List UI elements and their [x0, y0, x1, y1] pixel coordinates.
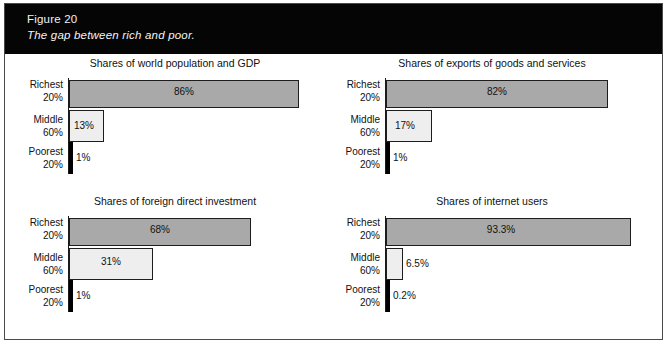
plot-area: Richest 20% 82% Middle 60% 17 — [332, 78, 652, 190]
panel-title: Shares of world population and GDP — [15, 56, 335, 70]
category-label-middle: Middle 60% — [15, 252, 63, 277]
bar-row-poorest: Poorest 20% 1% — [332, 142, 652, 174]
category-label-line2: 20% — [332, 92, 380, 105]
category-label-line2: 20% — [332, 297, 380, 310]
category-label-line2: 60% — [332, 127, 380, 140]
category-label-line2: 60% — [332, 265, 380, 278]
category-label-line2: 20% — [15, 159, 63, 172]
bar-row-poorest: Poorest 20% 1% — [15, 280, 335, 312]
category-label-line1: Poorest — [346, 284, 380, 295]
category-label-line2: 20% — [332, 230, 380, 243]
category-label-middle: Middle 60% — [15, 114, 63, 139]
category-label-line1: Richest — [347, 79, 380, 90]
bar-middle — [386, 248, 403, 280]
bar-poorest — [69, 142, 73, 174]
chart-panel-internet-users: Shares of internet users Richest 20% 93.… — [332, 194, 652, 334]
bar-value-middle: 6.5% — [406, 258, 429, 270]
category-label-line2: 60% — [15, 127, 63, 140]
category-label-line1: Middle — [351, 252, 380, 263]
category-label-line1: Richest — [30, 217, 63, 228]
category-label-richest: Richest 20% — [15, 217, 63, 242]
category-label-line2: 60% — [15, 265, 63, 278]
bar-row-richest: Richest 20% 86% — [15, 78, 335, 110]
bar-poorest — [386, 142, 390, 174]
category-label-line2: 20% — [15, 92, 63, 105]
category-label-middle: Middle 60% — [332, 114, 380, 139]
figure-root: Figure 20 The gap between rich and poor.… — [0, 0, 667, 344]
category-label-line1: Poorest — [29, 146, 63, 157]
plot-area: Richest 20% 93.3% Middle 60% — [332, 216, 652, 328]
figure-header-band: Figure 20 The gap between rich and poor. — [5, 4, 662, 54]
bar-poorest — [386, 280, 390, 312]
bar-row-richest: Richest 20% 93.3% — [332, 216, 652, 248]
bar-value-richest: 93.3% — [487, 224, 515, 236]
category-label-line2: 20% — [332, 159, 380, 172]
panel-title: Shares of exports of goods and services — [332, 56, 652, 70]
bar-row-richest: Richest 20% 82% — [332, 78, 652, 110]
category-label-line1: Poorest — [346, 146, 380, 157]
bar-value-poorest: 1% — [76, 290, 90, 302]
chart-panel-world-population-gdp: Shares of world population and GDP Riche… — [15, 56, 335, 196]
bar-value-poorest: 1% — [393, 152, 407, 164]
category-label-poorest: Poorest 20% — [15, 284, 63, 309]
bar-value-richest: 82% — [487, 86, 507, 98]
plot-area: Richest 20% 68% Middle 60% 31 — [15, 216, 335, 328]
chart-panel-exports-goods-services: Shares of exports of goods and services … — [332, 56, 652, 196]
bar-value-poorest: 0.2% — [393, 290, 416, 302]
bar-value-middle: 13% — [74, 120, 94, 132]
category-label-poorest: Poorest 20% — [332, 146, 380, 171]
bar-row-poorest: Poorest 20% 0.2% — [332, 280, 652, 312]
category-label-line1: Middle — [34, 114, 63, 125]
bar-row-poorest: Poorest 20% 1% — [15, 142, 335, 174]
bar-value-poorest: 1% — [76, 152, 90, 164]
category-label-poorest: Poorest 20% — [332, 284, 380, 309]
bar-row-middle: Middle 60% 31% — [15, 248, 335, 280]
figure-subtitle: The gap between rich and poor. — [27, 28, 195, 43]
plot-area: Richest 20% 86% Middle 60% 13 — [15, 78, 335, 190]
panel-title: Shares of foreign direct investment — [15, 194, 335, 208]
category-label-line1: Richest — [30, 79, 63, 90]
figure-header-text: Figure 20 The gap between rich and poor. — [27, 12, 195, 43]
category-label-line1: Middle — [351, 114, 380, 125]
bar-poorest — [69, 280, 73, 312]
category-label-line2: 20% — [15, 297, 63, 310]
figure-number: Figure 20 — [27, 12, 195, 27]
bar-value-middle: 17% — [395, 120, 415, 132]
category-label-richest: Richest 20% — [332, 79, 380, 104]
bar-value-richest: 68% — [150, 224, 170, 236]
bar-row-middle: Middle 60% 13% — [15, 110, 335, 142]
category-label-richest: Richest 20% — [15, 79, 63, 104]
bar-row-middle: Middle 60% 17% — [332, 110, 652, 142]
chart-panel-foreign-direct-investment: Shares of foreign direct investment Rich… — [15, 194, 335, 334]
category-label-line1: Richest — [347, 217, 380, 228]
category-label-poorest: Poorest 20% — [15, 146, 63, 171]
category-label-richest: Richest 20% — [332, 217, 380, 242]
category-label-line2: 20% — [15, 230, 63, 243]
bar-value-middle: 31% — [101, 256, 121, 268]
chart-panels-container: Shares of world population and GDP Riche… — [5, 54, 662, 339]
panel-title: Shares of internet users — [332, 194, 652, 208]
category-label-line1: Middle — [34, 252, 63, 263]
category-label-middle: Middle 60% — [332, 252, 380, 277]
category-label-line1: Poorest — [29, 284, 63, 295]
bar-row-richest: Richest 20% 68% — [15, 216, 335, 248]
bar-value-richest: 86% — [174, 86, 194, 98]
bar-row-middle: Middle 60% 6.5% — [332, 248, 652, 280]
